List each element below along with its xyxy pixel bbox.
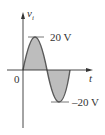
trough-label: –20 V	[72, 97, 99, 108]
y-axis-label: vi	[27, 8, 34, 22]
origin-label: 0	[14, 74, 20, 85]
t-axis-label: t	[89, 73, 92, 84]
y-axis-arrow-icon	[21, 12, 25, 19]
waveform-diagram	[0, 0, 105, 135]
peak-label: 20 V	[50, 32, 72, 43]
